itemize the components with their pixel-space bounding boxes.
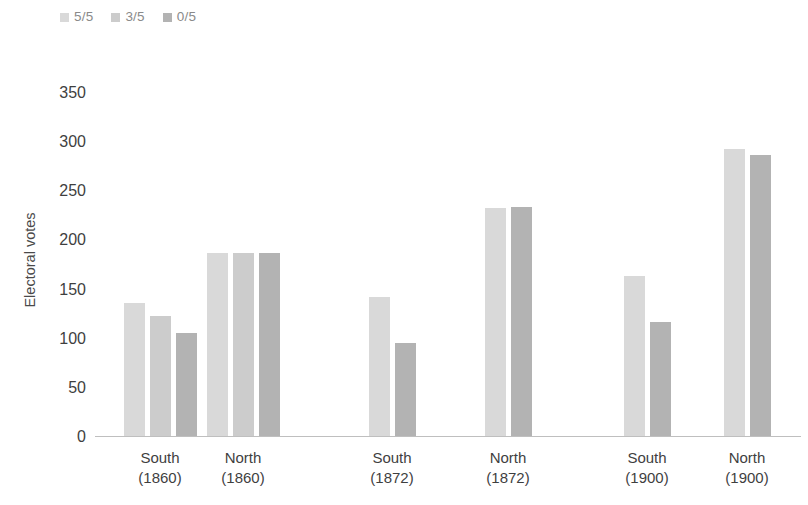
y-axis-tick-label: 150: [59, 281, 86, 299]
y-axis-tick-label: 100: [59, 330, 86, 348]
legend-item-3-5[interactable]: 3/5: [111, 10, 144, 24]
legend-item-0-5[interactable]: 0/5: [163, 10, 196, 24]
x-axis-label-line: (1860): [188, 468, 298, 488]
bar[interactable]: [176, 333, 197, 435]
bar[interactable]: [650, 322, 671, 436]
bar[interactable]: [124, 303, 145, 436]
bar-chart: 5/5 3/5 0/5 Electoral votes 050100150200…: [0, 0, 808, 505]
bar[interactable]: [395, 343, 416, 435]
bar[interactable]: [750, 155, 771, 435]
bar[interactable]: [724, 149, 745, 436]
legend-swatch-icon-5-5: [60, 13, 69, 22]
legend-swatch-icon-3-5: [111, 13, 120, 22]
y-axis-title: Electoral votes: [20, 170, 40, 350]
x-axis-label-line: North: [692, 448, 802, 468]
legend-swatch-icon-0-5: [163, 13, 172, 22]
legend-label-5-5: 5/5: [74, 10, 93, 24]
bar[interactable]: [259, 253, 280, 436]
y-axis-tick-label: 350: [59, 84, 86, 102]
bar[interactable]: [233, 253, 254, 436]
x-axis-label-line: South: [592, 448, 702, 468]
legend-item-5-5[interactable]: 5/5: [60, 10, 93, 24]
x-axis-label-line: (1900): [692, 468, 802, 488]
x-axis-label: North(1872): [453, 448, 563, 488]
bar[interactable]: [207, 253, 228, 436]
bar[interactable]: [624, 276, 645, 435]
axis-baseline: [95, 436, 801, 438]
x-axis-label-line: (1872): [337, 468, 447, 488]
y-axis-tick-label: 0: [77, 428, 86, 446]
y-axis-title-text: Electoral votes: [22, 212, 38, 307]
x-axis-label-line: South: [337, 448, 447, 468]
x-axis-label: South(1872): [337, 448, 447, 488]
x-axis-label-line: (1872): [453, 468, 563, 488]
chart-legend: 5/5 3/5 0/5: [60, 6, 196, 28]
bar[interactable]: [511, 207, 532, 435]
x-axis-label: North(1860): [188, 448, 298, 488]
x-axis-label-line: North: [188, 448, 298, 468]
legend-label-0-5: 0/5: [177, 10, 196, 24]
x-axis-label-line: (1900): [592, 468, 702, 488]
bar[interactable]: [369, 297, 390, 436]
y-axis-tick-label: 200: [59, 231, 86, 249]
bar[interactable]: [485, 208, 506, 435]
x-axis-label-line: North: [453, 448, 563, 468]
y-axis-tick-label: 300: [59, 133, 86, 151]
x-axis-label: North(1900): [692, 448, 802, 488]
y-axis-tick-label: 250: [59, 182, 86, 200]
x-axis-label: South(1900): [592, 448, 702, 488]
bar[interactable]: [150, 316, 171, 436]
legend-label-3-5: 3/5: [125, 10, 144, 24]
plot-area: 050100150200250300350: [95, 93, 801, 437]
y-axis-tick-label: 50: [68, 379, 86, 397]
